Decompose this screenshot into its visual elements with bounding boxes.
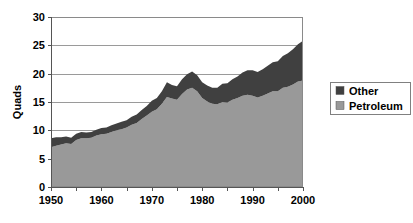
x-tick-label-1980: 1980 [190, 194, 214, 206]
y-tick-label-15: 15 [33, 96, 45, 108]
x-tick-label-1960: 1960 [89, 194, 113, 206]
stacked-area-chart: 051015202530 195019601970198019902000 Qu… [0, 0, 413, 223]
y-tick-label-30: 30 [33, 11, 45, 23]
y-tick-label-10: 10 [33, 124, 45, 136]
legend-swatch-other [336, 87, 344, 95]
y-tick-label-5: 5 [39, 153, 45, 165]
y-tick-label-20: 20 [33, 68, 45, 80]
x-tick-label-1950: 1950 [39, 194, 63, 206]
legend-swatch-petroleum [336, 102, 344, 110]
y-tick-label-0: 0 [39, 181, 45, 193]
y-axis-title: Quads [11, 85, 23, 119]
chart-figure: 051015202530 195019601970198019902000 Qu… [0, 0, 413, 223]
x-tick-label-1970: 1970 [140, 194, 164, 206]
legend-label-other: Other [349, 85, 379, 97]
x-tick-label-2000: 2000 [291, 194, 315, 206]
chart-legend: OtherPetroleum [331, 83, 411, 115]
y-tick-label-25: 25 [33, 39, 45, 51]
legend-label-petroleum: Petroleum [349, 100, 403, 112]
x-tick-label-1990: 1990 [240, 194, 264, 206]
